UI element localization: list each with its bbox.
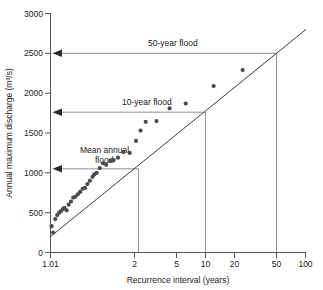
data-point bbox=[167, 106, 171, 110]
data-point bbox=[49, 224, 53, 228]
y-axis-ticks: 0 500 1000 1500 2000 2500 3000 bbox=[24, 9, 50, 258]
data-point bbox=[154, 119, 158, 123]
data-point bbox=[116, 156, 120, 160]
flood-frequency-chart: 0 500 1000 1500 2000 2500 3000 1.01 2 5 … bbox=[0, 0, 323, 290]
data-point bbox=[121, 150, 125, 154]
data-point bbox=[51, 230, 55, 234]
data-point bbox=[241, 68, 245, 72]
flood-frequency-figure: 0 500 1000 1500 2000 2500 3000 1.01 2 5 … bbox=[0, 0, 323, 290]
arrow-head-50-year-flood bbox=[53, 50, 63, 57]
y-tick-label-2500: 2500 bbox=[24, 48, 43, 58]
data-point bbox=[138, 129, 142, 133]
data-point bbox=[88, 179, 92, 183]
data-point bbox=[134, 139, 138, 143]
y-tick-label-3000: 3000 bbox=[24, 9, 43, 19]
x-tick-label-20: 20 bbox=[230, 259, 240, 269]
annotation-label-10-year-flood: 10-year flood bbox=[122, 97, 172, 107]
x-tick-label-5: 5 bbox=[174, 259, 179, 269]
data-point bbox=[108, 159, 112, 163]
y-axis-title: Annual maximum discharge (m³/s) bbox=[4, 68, 14, 198]
data-point bbox=[65, 208, 69, 212]
data-point bbox=[53, 217, 57, 221]
data-point bbox=[83, 186, 87, 190]
fit-line bbox=[51, 29, 307, 236]
data-point bbox=[98, 166, 102, 170]
annotation-drop-lines bbox=[139, 53, 277, 252]
x-axis-title: Recurrence interval (years) bbox=[127, 275, 230, 285]
y-tick-label-2000: 2000 bbox=[24, 88, 43, 98]
data-point bbox=[212, 84, 216, 88]
y-tick-label-500: 500 bbox=[29, 208, 43, 218]
y-tick-label-1000: 1000 bbox=[24, 168, 43, 178]
data-point bbox=[112, 158, 116, 162]
x-tick-label-50: 50 bbox=[272, 259, 282, 269]
data-point bbox=[144, 120, 148, 124]
x-tick-label-2: 2 bbox=[132, 259, 137, 269]
scatter-points-layer bbox=[49, 68, 244, 235]
arrow-head-10-year-flood bbox=[53, 109, 63, 116]
data-point bbox=[104, 163, 108, 167]
data-point bbox=[128, 151, 132, 155]
data-point bbox=[184, 101, 188, 105]
x-axis-ticks: 1.01 2 5 10 20 50 100 bbox=[42, 253, 313, 270]
annotation-label-50-year-flood: 50-year flood bbox=[148, 38, 198, 48]
x-tick-label-1.01: 1.01 bbox=[42, 259, 59, 269]
data-point bbox=[69, 199, 73, 203]
arrow-head-mean-annual-flood bbox=[53, 165, 63, 172]
data-point bbox=[95, 171, 99, 175]
x-tick-label-100: 100 bbox=[298, 259, 312, 269]
y-tick-label-0: 0 bbox=[38, 248, 43, 258]
y-tick-label-1500: 1500 bbox=[24, 128, 43, 138]
x-tick-label-10: 10 bbox=[201, 259, 211, 269]
